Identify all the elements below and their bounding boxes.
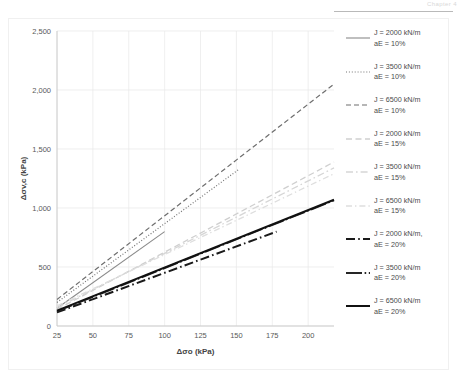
- legend-item[interactable]: J = 2000 kN/m,aE = 20%: [345, 229, 453, 263]
- legend-swatch-icon: [345, 167, 371, 177]
- legend-label-line1: J = 3500 kN/m: [374, 62, 421, 71]
- legend-item[interactable]: J = 6500 kN/maE = 15%: [345, 196, 453, 230]
- legend-item[interactable]: J = 2000 kN/maE = 15%: [345, 129, 453, 163]
- y-tick-label: 0: [47, 322, 51, 331]
- legend-label: J = 3500 kN/maE = 15%: [374, 162, 452, 183]
- legend-label: J = 3500 kN/maE = 20%: [374, 263, 452, 284]
- legend-label-line1: J = 2000 kN/m: [374, 28, 421, 37]
- legend-item[interactable]: J = 6500 kN/maE = 10%: [345, 95, 453, 129]
- legend-label-line2: aE = 10%: [374, 39, 452, 50]
- legend-label-line1: J = 6500 kN/m: [374, 95, 421, 104]
- legend-label: J = 2000 kN/maE = 10%: [374, 28, 452, 49]
- legend-label: J = 6500 kN/maE = 10%: [374, 95, 452, 116]
- chart-legend: J = 2000 kN/maE = 10%J = 3500 kN/maE = 1…: [345, 28, 453, 368]
- x-tick-label: 125: [194, 331, 207, 340]
- x-tick-label: 25: [53, 331, 61, 340]
- legend-label: J = 6500 kN/maE = 15%: [374, 196, 452, 217]
- legend-swatch-icon: [345, 201, 371, 211]
- legend-swatch-icon: [345, 100, 371, 110]
- legend-item[interactable]: J = 3500 kN/maE = 15%: [345, 162, 453, 196]
- legend-label-line2: aE = 10%: [374, 72, 452, 83]
- legend-label-line2: aE = 15%: [374, 206, 452, 217]
- legend-swatch-icon: [345, 134, 371, 144]
- legend-swatch-icon: [345, 268, 371, 278]
- x-tick-label: 150: [230, 331, 243, 340]
- y-tick-label: 2,000: [32, 86, 51, 95]
- legend-label-line1: J = 6500 kN/m: [374, 196, 421, 205]
- legend-swatch-icon: [345, 234, 371, 244]
- legend-label: J = 3500 kN/maE = 10%: [374, 62, 452, 83]
- legend-label: J = 2000 kN/m,aE = 20%: [374, 229, 452, 250]
- x-tick-label: 100: [158, 331, 171, 340]
- plot-background: [57, 31, 334, 326]
- legend-label-line1: J = 3500 kN/m: [374, 162, 421, 171]
- legend-item[interactable]: J = 6500 kN/maE = 20%: [345, 296, 453, 330]
- legend-label-line1: J = 2000 kN/m,: [374, 229, 423, 238]
- x-tick-label: 175: [266, 331, 279, 340]
- y-axis-title: Δσv,c (kPa): [19, 156, 28, 200]
- legend-label-line2: aE = 10%: [374, 106, 452, 117]
- x-axis-title: Δσo (kPa): [177, 347, 215, 356]
- legend-label-line2: aE = 20%: [374, 273, 452, 284]
- y-tick-label: 2,500: [32, 27, 51, 36]
- x-tick-label: 75: [125, 331, 133, 340]
- legend-label-line1: J = 2000 kN/m: [374, 129, 421, 138]
- legend-label-line2: aE = 15%: [374, 139, 452, 150]
- legend-item[interactable]: J = 3500 kN/maE = 10%: [345, 62, 453, 96]
- legend-label: J = 6500 kN/maE = 20%: [374, 296, 452, 317]
- y-tick-label: 1,500: [32, 145, 51, 154]
- legend-swatch-icon: [345, 33, 371, 43]
- y-tick-label: 500: [38, 263, 51, 272]
- legend-item[interactable]: J = 3500 kN/maE = 20%: [345, 263, 453, 297]
- legend-item[interactable]: J = 2000 kN/maE = 10%: [345, 28, 453, 62]
- legend-label-line1: J = 3500 kN/m: [374, 263, 421, 272]
- legend-label-line2: aE = 15%: [374, 173, 452, 184]
- legend-label-line2: aE = 20%: [374, 240, 452, 251]
- legend-label-line1: J = 6500 kN/m: [374, 296, 421, 305]
- y-tick-label: 1,000: [32, 204, 51, 213]
- legend-swatch-icon: [345, 301, 371, 311]
- legend-label: J = 2000 kN/maE = 15%: [374, 129, 452, 150]
- x-tick-label: 50: [89, 331, 97, 340]
- legend-swatch-icon: [345, 67, 371, 77]
- figure-container: Chapter 4 05001,0001,5002,0002,500255075…: [0, 0, 457, 380]
- x-tick-label: 200: [302, 331, 315, 340]
- legend-label-line2: aE = 20%: [374, 307, 452, 318]
